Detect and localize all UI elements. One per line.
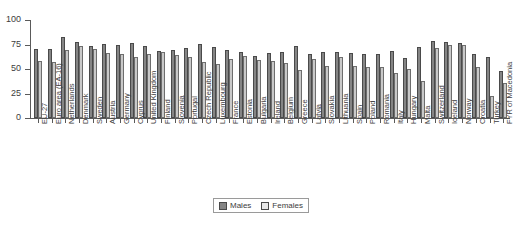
x-axis-label: France — [232, 101, 240, 124]
x-axis-label-cell: Portugal — [182, 124, 196, 224]
y-axis-tick-label: 75 — [0, 40, 21, 49]
y-axis-tick-label: 100 — [0, 15, 21, 24]
x-axis-label-cell: Denmark — [72, 124, 86, 224]
x-axis-label: Luxembourg — [219, 82, 227, 124]
x-axis-label-cell: Poland — [360, 124, 374, 224]
x-axis-label: Switzerland — [438, 85, 446, 124]
x-axis-label-cell: Switzerland — [428, 124, 442, 224]
x-axis-label-cell: Netherlands — [58, 124, 72, 224]
x-axis-label-cell: Iceland — [442, 124, 456, 224]
x-axis-label-cell: Spain — [346, 124, 360, 224]
y-axis-tick — [25, 94, 30, 95]
x-axis-label-cell: EU-27 — [31, 124, 45, 224]
legend-swatch-males-icon — [219, 202, 227, 210]
x-axis-label-cell: Euro area (EA-16) — [45, 124, 59, 224]
x-axis-label-cell: Norway — [455, 124, 469, 224]
x-axis-label: Spain — [356, 105, 364, 124]
legend-label: Females — [272, 201, 303, 210]
x-axis-label: Greece — [301, 99, 309, 124]
x-axis-label: Lithuania — [342, 94, 350, 124]
y-axis-tick — [25, 45, 30, 46]
x-axis-label: Hungary — [410, 96, 418, 124]
x-axis-label: Cyprus — [137, 100, 145, 124]
x-axis-label-cell: Romania — [373, 124, 387, 224]
y-axis-tick-label: 0 — [0, 113, 21, 122]
x-axis-label: Euro area (EA-16) — [55, 63, 63, 124]
x-axis-label-cell: Lithuania — [332, 124, 346, 224]
x-axis-label: Slovenia — [178, 95, 186, 124]
y-axis-tick-label: 25 — [0, 89, 21, 98]
x-axis-label-cell: Turkey — [483, 124, 497, 224]
legend-label: Males — [230, 201, 251, 210]
x-axis-label: Turkey — [493, 101, 501, 124]
x-axis-label: Czech Republic — [205, 71, 213, 124]
x-axis-label-cell: Hungary — [401, 124, 415, 224]
x-axis-label: Malta — [424, 106, 432, 124]
x-axis-label: Bulgaria — [260, 96, 268, 124]
x-axis-label: EU-27 — [41, 103, 49, 124]
x-axis-label-cell: Finland — [154, 124, 168, 224]
y-axis-tick-label: 50 — [0, 64, 21, 73]
x-axis-label: Ireland — [274, 101, 282, 124]
x-axis-label-cell: Malta — [414, 124, 428, 224]
chart-legend: MalesFemales — [213, 198, 309, 213]
x-axis-label: Sweden — [96, 97, 104, 124]
x-axis-label: Belgium — [287, 97, 295, 124]
x-axis-label-cell: Cyprus — [127, 124, 141, 224]
x-axis-label: Netherlands — [68, 84, 76, 124]
x-axis-label-cell: Slovakia — [318, 124, 332, 224]
y-axis-tick — [25, 20, 30, 21]
x-axis-label: Italy — [397, 110, 405, 124]
x-axis-label-cell: Germany — [113, 124, 127, 224]
x-axis-label: FYR of Macedonia — [506, 62, 514, 124]
y-axis-tick — [25, 69, 30, 70]
legend-item-males: Males — [219, 201, 251, 210]
legend-swatch-females-icon — [261, 202, 269, 210]
x-axis-label: Poland — [369, 101, 377, 124]
x-axis-label: Austria — [109, 101, 117, 124]
x-axis-label: Croatia — [479, 100, 487, 124]
y-axis-tick — [25, 118, 30, 119]
x-axis-label-cell: Croatia — [469, 124, 483, 224]
x-axis-label: Germany — [123, 93, 131, 124]
x-axis-label-cell: FYR of Macedonia — [496, 124, 510, 224]
x-axis-label-cell: Sweden — [86, 124, 100, 224]
x-axis-label: Denmark — [82, 94, 90, 124]
x-axis-label-cell: United Kingdom — [141, 124, 155, 224]
x-axis-label: Norway — [465, 99, 473, 124]
x-axis-label: Slovakia — [328, 96, 336, 124]
x-axis-label: Portugal — [191, 96, 199, 124]
x-axis-label: Estonia — [246, 99, 254, 124]
x-axis-label-cell: Italy — [387, 124, 401, 224]
x-axis-label: United Kingdom — [150, 71, 158, 124]
x-axis-label: Iceland — [451, 100, 459, 124]
x-axis-label: Romania — [383, 94, 391, 124]
x-axis-label-cell: Czech Republic — [195, 124, 209, 224]
x-axis-label-cell: Slovenia — [168, 124, 182, 224]
x-axis-label: Finland — [164, 99, 172, 124]
employment-rate-bar-chart: 0255075100 EU-27Euro area (EA-16)Netherl… — [0, 0, 514, 228]
x-axis-label: Latvia — [315, 104, 323, 124]
x-axis-label-cell: Austria — [99, 124, 113, 224]
legend-item-females: Females — [261, 201, 303, 210]
